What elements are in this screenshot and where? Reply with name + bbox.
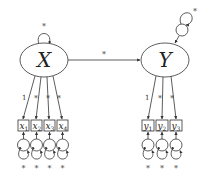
- structural-path-label: *: [102, 50, 106, 59]
- latent-x-label: X: [35, 48, 52, 72]
- error-variance-label: *: [35, 164, 39, 173]
- error-variance-label: *: [61, 164, 65, 173]
- indicator-y1: y1: [142, 120, 154, 132]
- x3-loading: *: [46, 94, 50, 103]
- error-terms: *******: [18, 132, 183, 173]
- error-x2: *: [31, 132, 43, 173]
- x1-loading: 1: [22, 94, 26, 102]
- error-y3: *: [170, 132, 182, 173]
- y1-sub: 1: [149, 125, 153, 132]
- error-x3: *: [44, 132, 56, 173]
- latent-x: X: [20, 43, 68, 77]
- sem-diagram: * X Y * * 1 * * * x1: [0, 0, 211, 177]
- error-variance-label: *: [146, 164, 150, 173]
- indicator-x1: x1: [18, 120, 29, 132]
- error-variance-label: *: [48, 164, 52, 173]
- indicator-x2: x2: [31, 120, 42, 132]
- x-loadings: 1 * * *: [22, 76, 62, 119]
- y2-sub: 2: [163, 125, 167, 132]
- indicator-y2: y2: [156, 120, 168, 132]
- x4-loading: *: [57, 94, 61, 103]
- x-variance-loop: *: [38, 22, 50, 44]
- latent-y: Y: [141, 43, 189, 77]
- y2-loading: *: [158, 94, 162, 103]
- error-y2: *: [156, 132, 168, 173]
- indicator-y3: y3: [170, 120, 182, 132]
- y-indicator-boxes: y1 y2 y3: [142, 120, 182, 132]
- x-variance-label: *: [42, 22, 46, 31]
- y3-sub: 3: [177, 125, 181, 132]
- indicator-x3: x3: [44, 120, 55, 132]
- x1-sub: 1: [25, 125, 29, 132]
- y-disturbance-label: *: [193, 7, 197, 16]
- y-disturbance: *: [175, 7, 197, 43]
- x4-sub: 4: [64, 125, 68, 132]
- error-x4: *: [57, 132, 69, 173]
- error-x1: *: [18, 132, 30, 173]
- error-variance-label: *: [160, 164, 164, 173]
- error-y1: *: [142, 132, 154, 173]
- y3-loading: *: [170, 94, 174, 103]
- y1-loading: 1: [145, 94, 149, 102]
- latent-y-label: Y: [158, 48, 173, 72]
- indicator-x4: x4: [57, 120, 68, 132]
- error-variance-label: *: [174, 164, 178, 173]
- x2-sub: 2: [38, 125, 42, 132]
- structural-path: *: [68, 50, 140, 60]
- error-variance-label: *: [22, 164, 26, 173]
- y-loadings: 1 * *: [145, 76, 176, 119]
- x-indicator-boxes: x1 x2 x3 x4: [18, 120, 68, 132]
- x3-sub: 3: [51, 125, 55, 132]
- x2-loading: *: [34, 94, 38, 103]
